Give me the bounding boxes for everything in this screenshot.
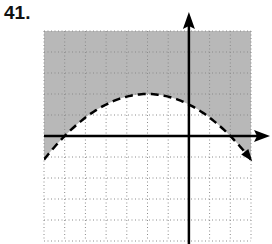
inequality-graph: [0, 0, 272, 244]
